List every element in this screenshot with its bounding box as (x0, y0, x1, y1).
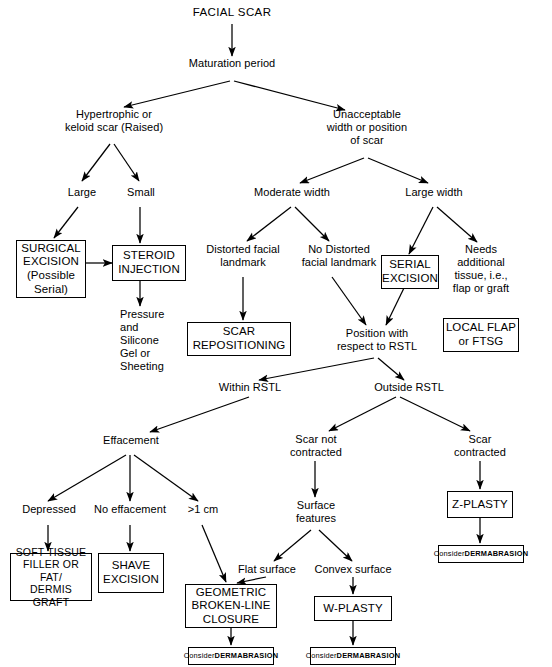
node-local-flap-ftsg: LOCAL FLAP or FTSG (443, 318, 519, 352)
node-consider-dermabrasion-geometric: Consider DERMABRASION (188, 647, 274, 665)
node-consider-dermabrasion-zplasty: Consider DERMABRASION (438, 545, 524, 563)
node-unacceptable-width: Unacceptable width or position of scar (313, 108, 421, 147)
node-no-effacement: No effacement (87, 503, 173, 516)
node-effacement: Effacement (95, 434, 167, 447)
node-pressure-silicone: Pressure and Silicone Gel or Sheeting (120, 308, 184, 373)
node-depressed: Depressed (14, 503, 84, 516)
node-surface-features: Surface features (286, 499, 346, 525)
node-hypertrophic-keloid: Hypertrophic or keloid scar (Raised) (52, 108, 176, 134)
node-geometric-broken-line-closure: GEOMETRIC BROKEN-LINE CLOSURE (185, 584, 277, 628)
node-serial-excision: SERIAL EXCISION (381, 255, 439, 289)
node-distorted-landmark: Distorted facial landmark (199, 243, 287, 269)
dermabrasion-label: DERMABRASION (465, 550, 529, 559)
node-scar-not-contracted: Scar not contracted (283, 433, 349, 459)
node-moderate-width: Moderate width (247, 186, 337, 199)
node-flat-surface: Flat surface (232, 563, 302, 576)
node-needs-additional-tissue: Needs additional tissue, i.e., flap or g… (447, 243, 515, 295)
facial-scar-flowchart: FACIAL SCAR Maturation period Hypertroph… (0, 0, 552, 667)
node-soft-tissue-filler: SOFT TISSUE FILLER OR FAT/ DERMIS GRAFT (10, 553, 92, 601)
dermabrasion-label: DERMABRASION (215, 652, 279, 661)
node-maturation-period: Maturation period (180, 57, 284, 70)
node-within-rstl: Within RSTL (212, 381, 288, 394)
node-scar-repositioning: SCAR REPOSITIONING (187, 322, 291, 356)
node-consider-dermabrasion-wplasty: Consider DERMABRASION (310, 647, 396, 665)
node-large: Large (58, 186, 106, 199)
consider-label: Consider (434, 550, 465, 559)
node-facial-scar: FACIAL SCAR (182, 6, 282, 20)
node-steroid-injection: STEROID INJECTION (112, 245, 186, 281)
node-outside-rstl: Outside RSTL (370, 381, 448, 394)
node-surgical-excision: SURGICAL EXCISION (Possible Serial) (16, 240, 86, 298)
node-shave-excision: SHAVE EXCISION (98, 553, 164, 593)
node-z-plasty: Z-PLASTY (447, 491, 513, 518)
consider-label: Consider (184, 652, 215, 661)
node-w-plasty: W-PLASTY (314, 596, 392, 621)
node-scar-contracted: Scar contracted (447, 433, 513, 459)
node-greater-than-1cm: >1 cm (182, 503, 224, 516)
node-position-rstl: Position with respect to RSTL (327, 327, 427, 353)
node-large-width: Large width (395, 186, 473, 199)
node-small: Small (118, 186, 164, 199)
node-convex-surface: Convex surface (310, 563, 396, 576)
consider-label: Consider (306, 652, 337, 661)
dermabrasion-label: DERMABRASION (337, 652, 401, 661)
node-no-distorted-landmark: No Distorted facial landmark (293, 243, 385, 269)
